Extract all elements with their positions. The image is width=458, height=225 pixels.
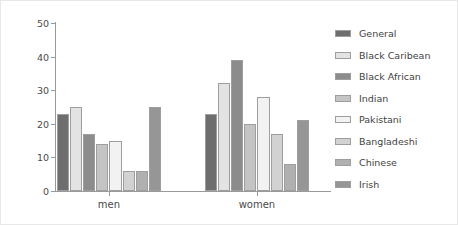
legend-item: Irish <box>335 174 455 196</box>
legend-label: General <box>359 29 396 39</box>
bar <box>271 134 283 191</box>
bar <box>57 114 69 191</box>
bar <box>257 97 269 191</box>
legend-label: Black African <box>359 72 421 82</box>
bar <box>83 134 95 191</box>
legend-label: Chinese <box>359 158 397 168</box>
legend-swatch <box>335 116 351 123</box>
legend-label: Irish <box>359 180 379 190</box>
y-tick-label: 0 <box>27 186 49 197</box>
x-tick-label: women <box>217 199 297 210</box>
legend-item: Black African <box>335 66 455 88</box>
legend-label: Pakistani <box>359 115 401 125</box>
legend-label: Black Caribean <box>359 51 430 61</box>
bar <box>231 60 243 191</box>
plot-area <box>55 23 327 191</box>
x-tick-mark <box>109 192 110 196</box>
legend-swatch <box>335 138 351 145</box>
legend-item: Bangladeshi <box>335 131 455 153</box>
legend-swatch <box>335 181 351 188</box>
y-tick-label: 20 <box>27 118 49 129</box>
legend-item: Indian <box>335 88 455 110</box>
x-axis-line <box>55 191 331 192</box>
legend-swatch <box>335 95 351 102</box>
bar <box>109 141 121 191</box>
legend-swatch <box>335 30 351 37</box>
chart-figure: % of obese individuals 01020304050 menwo… <box>0 0 458 225</box>
chart-legend: GeneralBlack CaribeanBlack AfricanIndian… <box>335 23 455 195</box>
y-tick-label: 40 <box>27 51 49 62</box>
legend-item: General <box>335 23 455 45</box>
legend-label: Indian <box>359 94 388 104</box>
x-tick-label: men <box>69 199 149 210</box>
bar <box>284 164 296 191</box>
bar <box>205 114 217 191</box>
bar <box>244 124 256 191</box>
legend-swatch <box>335 159 351 166</box>
y-tick-label: 30 <box>27 85 49 96</box>
legend-label: Bangladeshi <box>359 137 417 147</box>
bar <box>149 107 161 191</box>
legend-swatch <box>335 73 351 80</box>
bar <box>123 171 135 191</box>
bar <box>136 171 148 191</box>
y-tick-label: 50 <box>27 18 49 29</box>
y-tick-label: 10 <box>27 152 49 163</box>
bar <box>96 144 108 191</box>
legend-item: Black Caribean <box>335 45 455 67</box>
bar <box>70 107 82 191</box>
x-tick-mark <box>257 192 258 196</box>
legend-swatch <box>335 52 351 59</box>
y-axis-tick-labels: 01020304050 <box>27 1 49 225</box>
bar <box>218 83 230 191</box>
legend-item: Pakistani <box>335 109 455 131</box>
legend-item: Chinese <box>335 152 455 174</box>
bar <box>297 120 309 191</box>
